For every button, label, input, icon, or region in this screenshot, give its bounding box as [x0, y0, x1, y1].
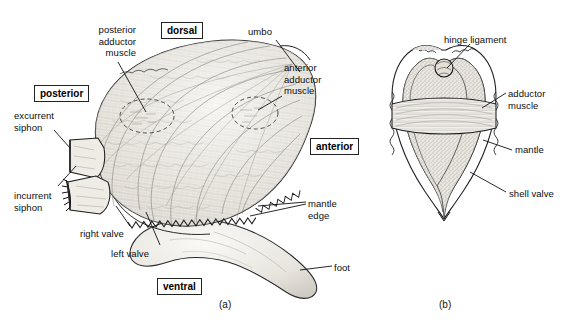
label-incurrent-siphon: incurrent siphon: [14, 190, 78, 213]
label-hinge-ligament: hinge ligament: [444, 34, 528, 46]
orientation-label-anterior: anterior: [310, 138, 359, 155]
leader-shell-valve: [470, 172, 506, 192]
label-excurrent-siphon: excurrent siphon: [14, 110, 78, 133]
orientation-label-ventral: ventral: [157, 278, 202, 295]
left-shell-valve: [95, 40, 315, 226]
label-left-valve: left valve: [111, 248, 175, 260]
label-right-valve: right valve: [80, 228, 150, 240]
orientation-label-posterior: posterior: [34, 85, 89, 102]
excurrent-siphon: [70, 138, 105, 178]
panel-caption-a: (a): [219, 299, 231, 310]
label-foot: foot: [334, 262, 368, 274]
panel-b-artwork: [390, 44, 512, 221]
label-anterior-adductor-muscle: anterior adductor muscle: [284, 62, 346, 97]
label-shell-valve: shell valve: [509, 188, 571, 200]
orientation-label-dorsal: dorsal: [161, 22, 203, 39]
adductor-muscle-band: [392, 98, 496, 134]
label-umbo: umbo: [248, 26, 288, 38]
hinge-ligament: [435, 59, 453, 77]
label-posterior-adductor-muscle: posterior adductor muscle: [58, 24, 136, 59]
label-mantle-edge: mantle edge: [308, 198, 356, 221]
figure-canvas: dorsal posterior anterior ventral poster…: [0, 0, 571, 330]
label-adductor-muscle: adductor muscle: [508, 88, 566, 111]
label-mantle: mantle: [515, 144, 563, 156]
panel-caption-b: (b): [439, 299, 451, 310]
